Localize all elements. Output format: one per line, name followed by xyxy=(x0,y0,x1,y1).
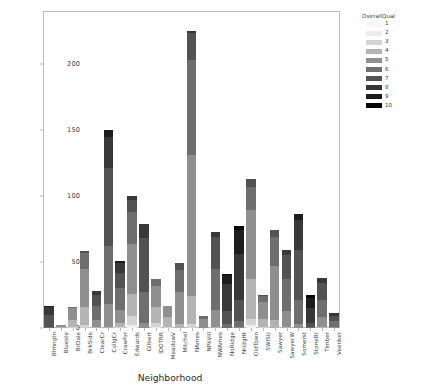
bar-segment xyxy=(187,324,197,328)
bar-segment xyxy=(104,327,114,328)
bar xyxy=(329,313,339,328)
bar-segment xyxy=(92,295,102,306)
legend-label: 7 xyxy=(385,75,389,81)
bar-segment xyxy=(306,327,316,328)
chart-figure: 050100150200 BlmngtnBluesteBrDaleBrkSide… xyxy=(0,0,426,392)
bar-segment xyxy=(68,327,78,328)
legend-swatch xyxy=(366,85,382,90)
bar-segment xyxy=(115,288,125,309)
bar-segment xyxy=(222,275,232,284)
x-tick-label: SWISU xyxy=(265,332,271,351)
bar xyxy=(258,295,268,328)
legend-swatch xyxy=(366,103,382,108)
bar xyxy=(92,291,102,328)
x-tick-mark xyxy=(215,328,216,331)
y-tick-mark xyxy=(40,129,43,130)
legend-label: 9 xyxy=(385,93,389,99)
x-tick-mark xyxy=(156,328,157,331)
bar-segment xyxy=(246,210,256,279)
bar-segment xyxy=(258,327,268,328)
bar xyxy=(68,307,78,328)
bar xyxy=(199,316,209,328)
bar-segment xyxy=(317,327,327,328)
bar-segment xyxy=(44,315,54,327)
legend-item: 10 xyxy=(352,102,426,110)
bar-segment xyxy=(175,292,185,324)
bar xyxy=(139,224,149,328)
bar-segment xyxy=(127,316,137,325)
x-tick-mark xyxy=(61,328,62,331)
bar-segment xyxy=(246,327,256,328)
bar-segment xyxy=(139,292,149,322)
x-tick-mark xyxy=(310,328,311,331)
bar-segment xyxy=(211,327,221,328)
bar-segment xyxy=(56,327,66,328)
bar-segment xyxy=(282,279,292,311)
bar-segment xyxy=(270,230,280,237)
legend-label: 1 xyxy=(385,20,389,26)
bar-segment xyxy=(92,327,102,328)
bar-segment xyxy=(104,137,114,169)
legend-swatch xyxy=(366,49,382,54)
x-tick-label: IDOTRR xyxy=(158,332,164,354)
legend-label: 2 xyxy=(385,29,389,35)
legend-item: 3 xyxy=(352,38,426,46)
bar-segment xyxy=(211,310,221,327)
x-tick-mark xyxy=(120,328,121,331)
y-tick-mark xyxy=(40,195,43,196)
bar xyxy=(163,306,173,328)
x-tick-label: StoneBr xyxy=(313,332,319,355)
bar-segment xyxy=(127,200,137,212)
bar-segment xyxy=(246,319,256,326)
bar-segment xyxy=(234,230,244,254)
bar-segment xyxy=(294,220,304,250)
x-tick-mark xyxy=(298,328,299,331)
legend-item: 8 xyxy=(352,84,426,92)
x-tick-label: NAmes xyxy=(194,332,200,352)
x-tick-mark xyxy=(251,328,252,331)
x-tick-label: ClearCr xyxy=(99,332,105,353)
legend-item: 6 xyxy=(352,66,426,74)
x-tick-label: Blmngtn xyxy=(51,332,57,356)
bar xyxy=(282,250,292,328)
bar-segment xyxy=(222,284,232,310)
x-tick-label: Veenker xyxy=(336,332,342,355)
bar-segment xyxy=(306,308,316,323)
bar-segment xyxy=(211,237,221,269)
bar-segment xyxy=(115,327,125,328)
x-tick-label: NoRidge xyxy=(229,332,235,356)
x-tick-label: Blueste xyxy=(63,332,69,353)
y-tick-label: 50 xyxy=(50,258,80,266)
bar-segment xyxy=(222,324,232,328)
bar-segment xyxy=(270,266,280,320)
bar-segment xyxy=(187,33,197,59)
x-tick-mark xyxy=(132,328,133,331)
x-tick-mark xyxy=(49,328,50,331)
bar-segment xyxy=(306,298,316,309)
bar xyxy=(44,306,54,328)
bar-segment xyxy=(175,263,185,270)
bar-segment xyxy=(151,307,161,323)
bar-segment xyxy=(151,279,161,286)
legend-label: 5 xyxy=(385,56,389,62)
bar xyxy=(306,295,316,328)
bar-segment xyxy=(127,244,137,294)
legend-swatch xyxy=(366,94,382,99)
bar-segment xyxy=(175,270,185,292)
bar-segment xyxy=(80,325,90,328)
bar xyxy=(151,279,161,328)
bar-segment xyxy=(104,168,114,246)
bar xyxy=(187,31,197,328)
bar-segment xyxy=(270,237,280,266)
bar-segment xyxy=(329,327,339,328)
x-tick-label: Gilbert xyxy=(146,332,152,351)
bar xyxy=(127,196,137,328)
bar-segment xyxy=(115,273,125,289)
bar-segment xyxy=(187,296,197,324)
y-tick-label: 150 xyxy=(50,126,80,134)
bar-segment xyxy=(115,310,125,323)
x-tick-label: Sawyer xyxy=(277,332,283,353)
x-tick-mark xyxy=(96,328,97,331)
bar xyxy=(294,214,304,328)
bar-segment xyxy=(127,212,137,244)
